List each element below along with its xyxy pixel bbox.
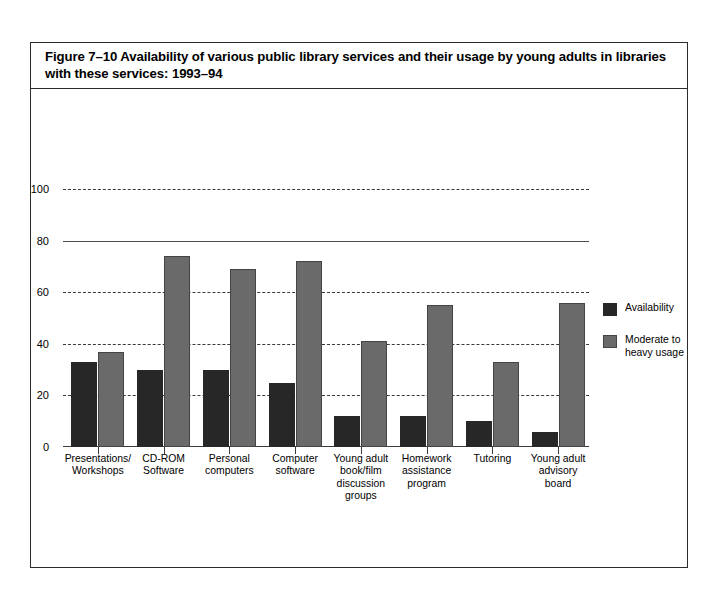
- chart-legend: AvailabilityModerate to heavy usage: [603, 302, 718, 375]
- bar-usage[interactable]: [98, 352, 124, 447]
- bar-group: [400, 189, 453, 447]
- bar-usage[interactable]: [164, 256, 190, 447]
- legend-item[interactable]: Availability: [603, 302, 718, 318]
- bar-availability[interactable]: [71, 362, 97, 447]
- bar-availability[interactable]: [203, 370, 229, 447]
- figure-frame: Figure 7–10 Availability of various publ…: [30, 42, 688, 568]
- bar-usage[interactable]: [296, 261, 322, 447]
- bar-availability[interactable]: [334, 416, 360, 447]
- bar-availability[interactable]: [466, 421, 492, 447]
- x-axis-label: Young adult advisory board: [503, 453, 613, 490]
- bar-group: [466, 189, 519, 447]
- bar-availability[interactable]: [137, 370, 163, 447]
- bar-usage[interactable]: [230, 269, 256, 447]
- y-tick-label-0: 0: [9, 441, 49, 453]
- bar-group: [137, 189, 190, 447]
- bar-group: [71, 189, 124, 447]
- legend-item-label: Moderate to heavy usage: [625, 334, 718, 359]
- bar-availability[interactable]: [532, 432, 558, 447]
- bar-group: [269, 189, 322, 447]
- bar-availability[interactable]: [269, 383, 295, 448]
- page-title: Figure 7–10 Availability of various publ…: [45, 48, 677, 83]
- bar-group: [334, 189, 387, 447]
- bar-usage[interactable]: [361, 341, 387, 447]
- bar-group: [203, 189, 256, 447]
- y-tick-label-20: 20: [9, 389, 49, 401]
- y-tick-label-80: 80: [9, 235, 49, 247]
- legend-swatch-usage: [603, 335, 617, 348]
- legend-swatch-availability: [603, 303, 617, 316]
- y-tick-label-40: 40: [9, 338, 49, 350]
- legend-item[interactable]: Moderate to heavy usage: [603, 334, 718, 359]
- plot-area: 020406080100Presentations/ WorkshopsCD-R…: [63, 189, 589, 447]
- bar-usage[interactable]: [559, 303, 585, 447]
- y-tick-label-60: 60: [9, 286, 49, 298]
- chart-body: 020406080100Presentations/ WorkshopsCD-R…: [31, 89, 687, 567]
- bar-usage[interactable]: [493, 362, 519, 447]
- bar-availability[interactable]: [400, 416, 426, 447]
- bar-group: [532, 189, 585, 447]
- figure-title-band: Figure 7–10 Availability of various publ…: [31, 43, 687, 89]
- legend-item-label: Availability: [625, 302, 718, 315]
- y-tick-label-100: 100: [9, 183, 49, 195]
- bar-usage[interactable]: [427, 305, 453, 447]
